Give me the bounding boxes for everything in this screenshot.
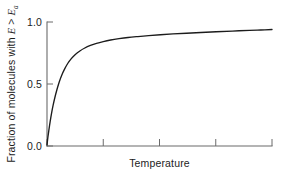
chart-figure: 0.0 0.5 1.0 Temperature Fraction of mole… bbox=[0, 0, 287, 174]
y-axis-title-relation: > bbox=[5, 15, 17, 27]
y-tick-label-0: 0.0 bbox=[27, 140, 42, 152]
y-axis-title-var-ea-subscript: a bbox=[12, 5, 20, 9]
y-tick-label-2: 1.0 bbox=[27, 16, 42, 28]
figure-background bbox=[0, 0, 287, 174]
y-tick-label-1: 0.5 bbox=[27, 78, 42, 90]
x-axis-title: Temperature bbox=[129, 157, 190, 169]
y-axis-title-lead: Fraction of molecules with bbox=[5, 34, 17, 162]
chart-canvas: 0.0 0.5 1.0 Temperature Fraction of mole… bbox=[0, 0, 287, 174]
